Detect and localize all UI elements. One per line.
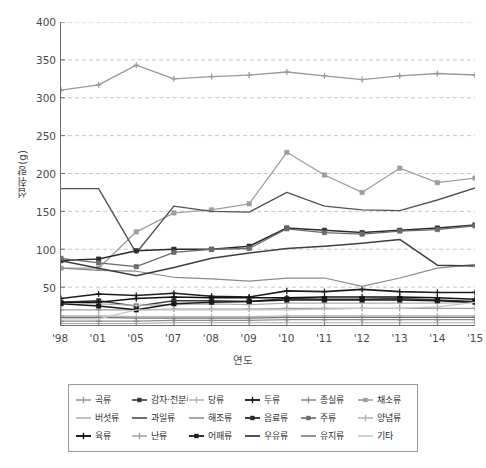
series-2 <box>61 313 475 320</box>
legend-marker-icon <box>75 395 92 405</box>
legend-item-종실류[interactable]: 종실류 <box>300 395 356 405</box>
x-tick-label: '15 <box>467 332 483 344</box>
legend-item-주류[interactable]: 주류 <box>300 413 356 423</box>
x-tick-label: '13 <box>391 332 407 344</box>
x-tick-label: '10 <box>278 332 294 344</box>
legend-label: 종실류 <box>320 396 344 405</box>
y-tick-label: 150 <box>36 206 56 218</box>
legend-item-과일류[interactable]: 과일류 <box>131 413 187 423</box>
legend-label: 감자·전분류 <box>151 396 187 405</box>
legend-marker-icon <box>188 431 205 441</box>
legend-item-육류[interactable]: 육류 <box>75 431 131 441</box>
series-canvas <box>61 22 475 325</box>
legend-item-두류[interactable]: 두류 <box>244 395 300 405</box>
legend-label: 유지류 <box>320 432 344 441</box>
legend-label: 해조류 <box>208 414 232 423</box>
legend-item-버섯류[interactable]: 버섯류 <box>75 413 131 423</box>
series-16 <box>61 317 475 318</box>
chart-legend: 곡류감자·전분류당류두류종실류채소류버섯류과일류해조류음료류주류양념류육류난류어… <box>68 384 418 452</box>
x-tick-label: '09 <box>241 332 257 344</box>
legend-marker-icon <box>357 395 374 405</box>
y-tick-label: 300 <box>36 92 56 104</box>
legend-item-음료류[interactable]: 음료류 <box>244 413 300 423</box>
x-axis-ticks: '98'01'05'07'08'09'10'11'12'13'14'15 <box>60 330 475 346</box>
legend-marker-icon <box>300 413 317 423</box>
legend-marker-icon <box>244 431 261 441</box>
legend-item-감자·전분류[interactable]: 감자·전분류 <box>131 395 187 405</box>
legend-item-곡류[interactable]: 곡류 <box>75 395 131 405</box>
series-0 <box>61 62 475 93</box>
legend-label: 채소류 <box>377 396 401 405</box>
legend-grid: 곡류감자·전분류당류두류종실류채소류버섯류과일류해조류음료류주류양념류육류난류어… <box>75 391 413 445</box>
legend-item-채소류[interactable]: 채소류 <box>357 395 413 405</box>
legend-label: 두류 <box>264 396 280 405</box>
chart-figure: 40035030025020015010050 섭취량(g) '98'01'05… <box>0 0 486 468</box>
legend-item-우유류[interactable]: 우유류 <box>244 431 300 441</box>
series-6 <box>61 323 475 324</box>
series-7 <box>61 188 475 253</box>
x-axis-title: 연도 <box>0 352 486 367</box>
legend-item-어패류[interactable]: 어패류 <box>188 431 244 441</box>
legend-item-난류[interactable]: 난류 <box>131 431 187 441</box>
y-tick-label: 400 <box>36 16 56 28</box>
series-5 <box>61 150 475 270</box>
legend-marker-icon <box>300 431 317 441</box>
legend-item-양념류[interactable]: 양념류 <box>357 413 413 423</box>
legend-label: 곡류 <box>95 396 111 405</box>
y-tick-label: 100 <box>36 244 56 256</box>
legend-label: 양념류 <box>377 414 401 423</box>
legend-label: 음료류 <box>264 414 288 423</box>
legend-marker-icon <box>188 413 205 423</box>
legend-marker-icon <box>188 395 205 405</box>
y-tick-label: 200 <box>36 168 56 180</box>
legend-marker-icon <box>300 395 317 405</box>
legend-label: 과일류 <box>151 414 175 423</box>
x-tick-label: '12 <box>354 332 370 344</box>
series-8 <box>61 264 475 286</box>
legend-marker-icon <box>244 395 261 405</box>
legend-item-기타[interactable]: 기타 <box>357 431 413 441</box>
legend-marker-icon <box>131 431 148 441</box>
x-tick-label: '01 <box>90 332 106 344</box>
plot-area <box>60 22 475 326</box>
x-tick-label: '11 <box>316 332 332 344</box>
y-axis-title: 섭취량(g) <box>14 150 29 198</box>
y-tick-label: 50 <box>43 282 56 294</box>
legend-item-당류[interactable]: 당류 <box>188 395 244 405</box>
legend-label: 우유류 <box>264 432 288 441</box>
legend-marker-icon <box>75 413 92 423</box>
x-tick-label: '98 <box>52 332 68 344</box>
legend-marker-icon <box>75 431 92 441</box>
x-tick-label: '14 <box>429 332 445 344</box>
legend-marker-icon <box>131 395 148 405</box>
series-9 <box>61 223 475 263</box>
legend-label: 육류 <box>95 432 111 441</box>
legend-label: 난류 <box>151 432 167 441</box>
legend-marker-icon <box>131 413 148 423</box>
legend-label: 어패류 <box>208 432 232 441</box>
x-tick-label: '05 <box>127 332 143 344</box>
legend-marker-icon <box>357 413 374 423</box>
legend-item-유지류[interactable]: 유지류 <box>300 431 356 441</box>
legend-marker-icon <box>244 413 261 423</box>
legend-label: 당류 <box>208 396 224 405</box>
legend-marker-icon <box>357 431 374 441</box>
x-tick-label: '07 <box>165 332 181 344</box>
legend-label: 기타 <box>377 432 393 441</box>
legend-label: 주류 <box>320 414 336 423</box>
legend-item-해조류[interactable]: 해조류 <box>188 413 244 423</box>
x-tick-label: '08 <box>203 332 219 344</box>
legend-label: 버섯류 <box>95 414 119 423</box>
y-tick-label: 250 <box>36 130 56 142</box>
y-tick-label: 350 <box>36 54 56 66</box>
